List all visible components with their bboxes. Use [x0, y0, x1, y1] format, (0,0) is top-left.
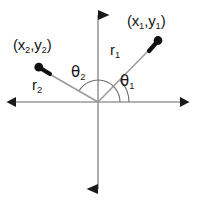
theta1-subscript: 1 [129, 81, 134, 91]
vector-label-r1: r1 [110, 42, 120, 57]
vector-label-r2: r2 [32, 77, 42, 92]
theta2-subscript: 2 [80, 72, 85, 82]
point-marker-p1 [149, 36, 162, 51]
p1-mid: ,y [144, 12, 155, 29]
angle-label-theta2: θ2 [71, 64, 85, 80]
p1-close: ) [161, 12, 166, 29]
p2-sub-x: 2 [25, 45, 30, 55]
polar-coordinate-diagram: (x1,y1) (x2,y2) r1 r2 θ1 θ2 [0, 0, 197, 203]
p1-sub-y: 1 [156, 21, 161, 31]
theta2-arc [79, 80, 120, 102]
p2-mid: ,y [30, 36, 41, 53]
angle-label-theta1: θ1 [120, 73, 134, 89]
theta2-symbol: θ [71, 63, 80, 81]
theta1-symbol: θ [120, 72, 129, 90]
vector-group [46, 47, 152, 102]
r2-subscript: 2 [37, 85, 42, 95]
diagram-canvas [0, 0, 197, 203]
point-label-p2: (x2,y2) [13, 37, 52, 52]
p2-open: (x [13, 36, 25, 53]
p1-sub-x: 1 [139, 21, 144, 31]
p2-close: ) [47, 36, 52, 53]
p1-open: (x [127, 12, 139, 29]
point-marker-p2 [34, 63, 50, 74]
p2-sub-y: 2 [42, 45, 47, 55]
r1-subscript: 1 [115, 50, 120, 60]
point-label-p1: (x1,y1) [127, 13, 166, 28]
